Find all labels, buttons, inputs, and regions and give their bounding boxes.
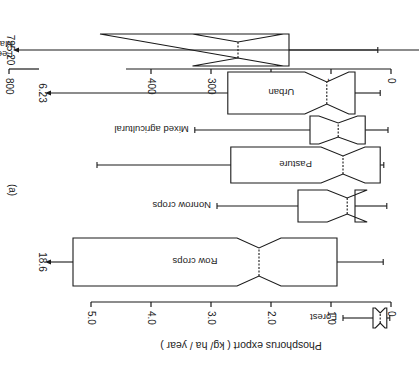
category-label: Urban — [268, 87, 294, 98]
offscale-max-label: 18.6 — [37, 252, 48, 272]
box-mixed-agricultural — [310, 116, 365, 144]
box-plot-chart: 01.02.03.04.05.0Phosphorus export ( kg/ … — [0, 0, 419, 385]
feedlot-axis-tick-label: 0 — [386, 78, 397, 84]
category-label: Nonrow crops — [152, 200, 211, 211]
feedlot-axis-tick-label: 800 — [4, 78, 15, 95]
main-axis-tick-label: 2.0 — [266, 311, 277, 325]
category-label: Manure storage — [0, 39, 13, 50]
category-label: Mixed agricultural — [114, 124, 188, 135]
category-label: Pasture — [279, 159, 312, 170]
main-axis-tick-label: 3.0 — [206, 311, 217, 325]
main-axis-tick-label: 0 — [386, 311, 397, 317]
category-label: Forest — [310, 312, 337, 323]
main-axis-tick-label: 4.0 — [146, 311, 157, 325]
chart-body: 01.02.03.04.05.0Phosphorus export ( kg/ … — [0, 34, 419, 352]
rotated-chart-figure: 01.02.03.04.05.0Phosphorus export ( kg/ … — [0, 0, 419, 385]
panel-label: (a) — [7, 184, 18, 196]
y-axis-label: Phosphorus export ( kg/ ha / year ) — [160, 340, 322, 352]
main-axis-tick-label: 5.0 — [86, 311, 97, 325]
offscale-max-label: 6.23 — [37, 83, 48, 103]
category-label: Row crops — [172, 256, 217, 267]
